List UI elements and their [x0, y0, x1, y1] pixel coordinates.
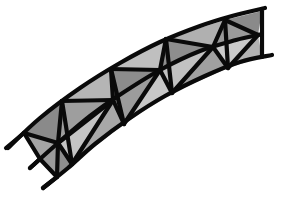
truss-diagram [0, 0, 284, 200]
truss-member [111, 69, 160, 70]
truss-member [62, 100, 113, 101]
truss-member [111, 69, 113, 100]
truss-member [57, 143, 58, 177]
curved-truss-beam [0, 0, 284, 200]
